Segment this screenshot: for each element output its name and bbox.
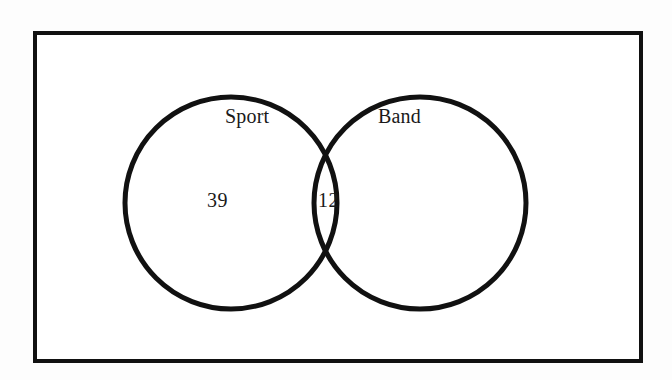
band-set-label: Band bbox=[378, 105, 421, 128]
sport-set-label: Sport bbox=[225, 105, 269, 128]
sport-band-intersection-count: 12 bbox=[318, 189, 339, 212]
sport-only-count: 39 bbox=[207, 189, 228, 212]
